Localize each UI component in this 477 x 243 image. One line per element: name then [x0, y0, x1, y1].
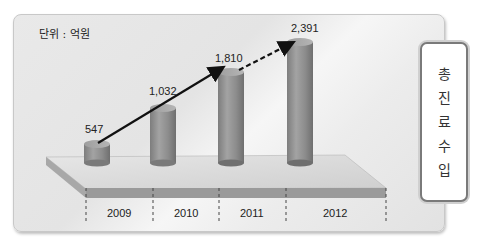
cylinder-chart: 547 1,032 1,810 2,391 2009 2010 2011 201…: [0, 0, 477, 243]
title-char: 총: [438, 62, 451, 86]
cylinder-2009: [84, 140, 110, 167]
year-label-2010: 2010: [174, 207, 198, 219]
cylinder-2012: [287, 38, 313, 167]
value-label-2009: 547: [85, 123, 103, 135]
year-label-2011: 2011: [240, 207, 264, 219]
year-label-2009: 2009: [107, 207, 131, 219]
title-char: 진: [438, 86, 451, 110]
trend-arrow-dashed: [239, 43, 292, 70]
value-label-2010: 1,032: [149, 85, 177, 97]
cylinder-2010: [150, 104, 176, 167]
chart-title-box: 총 진 료 수 입: [420, 42, 468, 202]
cylinder-2011: [218, 68, 244, 167]
title-char: 료: [438, 110, 451, 134]
value-label-2011: 1,810: [215, 52, 243, 64]
value-label-2012: 2,391: [291, 22, 319, 34]
year-label-2012: 2012: [323, 207, 347, 219]
title-char: 입: [438, 158, 451, 182]
title-char: 수: [438, 134, 451, 158]
